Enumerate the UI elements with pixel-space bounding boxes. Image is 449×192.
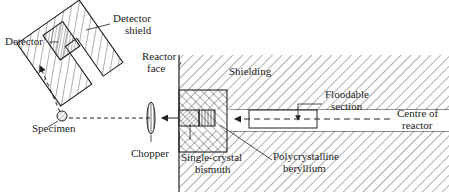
- bismuth-crystal: [179, 110, 199, 126]
- label-detector: Detector: [5, 35, 43, 47]
- label-shielding: Shielding: [229, 65, 272, 77]
- label-floodable-1: Floodable: [325, 88, 369, 100]
- label-centre-2: reactor: [402, 119, 433, 131]
- label-specimen: Specimen: [32, 122, 76, 134]
- chopper: [147, 102, 155, 134]
- detector-shield: [17, 0, 123, 106]
- label-detector-shield-1: Detector: [113, 12, 151, 24]
- label-floodable-2: section: [331, 100, 363, 112]
- label-bismuth-2: bismuth: [195, 163, 231, 175]
- label-reactor-face-1: Reactor: [142, 50, 177, 62]
- specimen: [57, 111, 67, 121]
- neutron-spectrometer-diagram: Detector Detector shield Reactor face Sh…: [0, 0, 449, 192]
- label-chopper: Chopper: [131, 147, 169, 159]
- label-beryllium-2: beryllium: [283, 162, 326, 174]
- label-bismuth-1: Single-crystal: [181, 151, 242, 163]
- label-centre-1: Centre of: [397, 107, 439, 119]
- label-reactor-face-2: face: [147, 62, 165, 74]
- label-beryllium-1: Polycrystalline: [273, 150, 339, 162]
- label-detector-shield-2: shield: [125, 24, 152, 36]
- beryllium-filter: [199, 110, 215, 126]
